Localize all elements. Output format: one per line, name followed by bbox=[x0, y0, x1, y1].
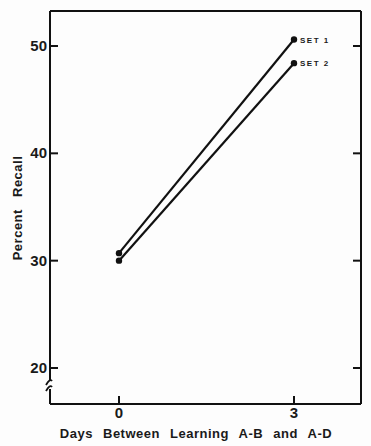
y-tick-label: 30 bbox=[30, 252, 47, 269]
y-tick-label: 20 bbox=[30, 359, 47, 376]
y-axis-title: Percent Recall bbox=[10, 156, 25, 261]
data-point-marker bbox=[116, 250, 122, 256]
y-tick-label: 50 bbox=[30, 37, 47, 54]
data-point-marker bbox=[291, 36, 297, 42]
data-point-marker bbox=[116, 257, 122, 263]
series-label: SET 1 bbox=[300, 36, 330, 45]
line-chart: 20304050 03 SET 1SET 2 Days Between Lear… bbox=[0, 0, 371, 446]
series-line bbox=[119, 40, 294, 254]
y-axis-ticks bbox=[50, 46, 361, 368]
x-tick-label: 3 bbox=[290, 404, 298, 421]
plot-frame bbox=[50, 11, 361, 404]
x-axis-title: Days Between Learning A-B and A-D bbox=[60, 426, 332, 441]
series-1: SET 1 bbox=[116, 36, 330, 257]
x-axis-ticks bbox=[119, 396, 294, 404]
series-line bbox=[119, 63, 294, 260]
x-tick-label: 0 bbox=[115, 404, 123, 421]
series-2: SET 2 bbox=[116, 59, 330, 264]
series-label: SET 2 bbox=[300, 59, 330, 68]
x-axis-tick-labels: 03 bbox=[115, 404, 298, 421]
data-point-marker bbox=[291, 60, 297, 66]
y-axis-tick-labels: 20304050 bbox=[30, 37, 47, 376]
y-tick-label: 40 bbox=[30, 144, 47, 161]
data-series: SET 1SET 2 bbox=[116, 36, 330, 264]
